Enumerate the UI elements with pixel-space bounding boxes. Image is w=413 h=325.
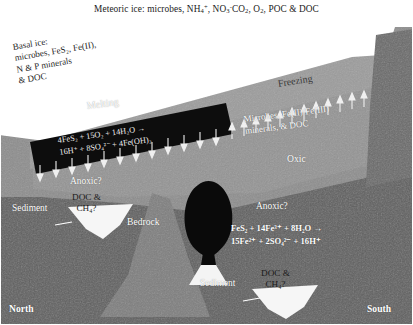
- oxic-zone-label: Oxic: [287, 153, 306, 164]
- ferric-equation-line2: 15Fe²⁺ + 2SO₄²⁻ + 16H⁺: [231, 235, 322, 248]
- caption-comma: , O: [248, 4, 260, 14]
- ferric-pyrite-oxidation-equation: FeS₂ + 14Fe³⁺ + 8H₂O → 15Fe²⁺ + 2SO₄²⁻ +…: [231, 222, 322, 247]
- sediment-left-label: Sediment: [12, 203, 47, 213]
- left-pocket-line2: CH₄?: [72, 203, 101, 214]
- bottom-pocket-label: DOC & CH₄?: [261, 268, 290, 290]
- bottom-pocket-line1: DOC &: [261, 268, 290, 279]
- sediment-bottom-label: Sediment: [200, 278, 235, 288]
- anoxic-zone-right-label: Anoxic?: [256, 201, 288, 211]
- caption-lead: Meteoric ice: microbes, NH: [94, 4, 200, 14]
- left-pocket-label: DOC & CH₄?: [72, 192, 101, 214]
- left-pocket-line1: DOC &: [72, 192, 101, 203]
- caption-tail: , POC & DOC: [264, 4, 319, 14]
- north-direction-label: North: [9, 303, 34, 314]
- plume-stem: [201, 253, 216, 265]
- anoxic-zone-left-label: Anoxic?: [70, 176, 102, 186]
- caption-co2: CO: [232, 4, 245, 14]
- south-direction-label: South: [367, 303, 391, 314]
- subglacial-biogeochemistry-figure: Meteoric ice: microbes, NH4+, NO3-CO2, O…: [0, 0, 413, 325]
- figure-top-caption: Meteoric ice: microbes, NH4+, NO3-CO2, O…: [0, 3, 413, 14]
- caption-mid: , NO: [208, 4, 226, 14]
- bedrock-label: Bedrock: [127, 216, 160, 227]
- bottom-pocket-line2: CH₄?: [261, 279, 290, 290]
- ferric-equation-line1: FeS₂ + 14Fe³⁺ + 8H₂O →: [231, 222, 322, 235]
